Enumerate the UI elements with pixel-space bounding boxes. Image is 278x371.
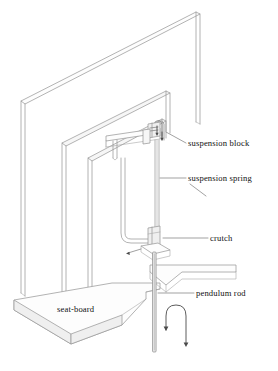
label-crutch: crutch bbox=[210, 233, 233, 243]
swing-arrow bbox=[164, 305, 189, 347]
crutch-part bbox=[121, 158, 170, 260]
back-board bbox=[21, 12, 200, 296]
label-suspension-block: suspension block bbox=[188, 138, 250, 148]
label-pendulum-rod: pendulum rod bbox=[196, 288, 246, 298]
pendulum-suspension-diagram: suspension block suspension spring crutc… bbox=[0, 0, 278, 371]
label-suspension-spring: suspension spring bbox=[188, 173, 252, 183]
suspension-spring-part bbox=[155, 140, 159, 228]
pendulum-rod-part bbox=[153, 252, 157, 352]
label-seat-board: seat-board bbox=[57, 304, 95, 314]
